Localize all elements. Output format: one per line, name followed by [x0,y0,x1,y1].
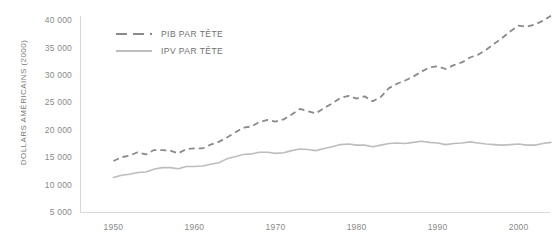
legend-item-ipv[interactable]: IPV PAR TÊTE [116,42,223,59]
plot-area [0,0,558,251]
chart-legend: PIB PAR TÊTE IPV PAR TÊTE [116,25,223,59]
legend-swatch-dashed-icon [116,29,152,39]
legend-label-pib: PIB PAR TÊTE [161,29,223,39]
chart-container: DOLLARS AMÉRICAINS (2000) 5 00010 00015 … [0,0,558,251]
legend-label-ipv: IPV PAR TÊTE [161,46,223,56]
legend-item-pib[interactable]: PIB PAR TÊTE [116,25,223,42]
legend-swatch-solid-icon [116,46,152,56]
series-line-ipv [113,141,551,177]
